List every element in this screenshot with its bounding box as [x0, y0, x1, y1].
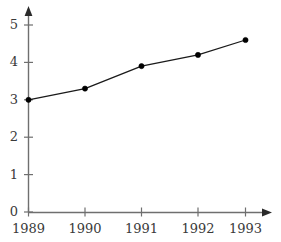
data-point-1989	[26, 97, 31, 102]
y-tick-label-3: 3	[4, 93, 18, 106]
x-axis	[29, 209, 273, 217]
y-axis-arrow-icon	[25, 6, 33, 16]
y-tick-label-1: 1	[4, 168, 18, 181]
x-tick-label-1990: 1990	[62, 222, 108, 235]
chart-plot-area	[0, 0, 281, 242]
data-point-1991	[139, 64, 144, 69]
x-tick-label-1993: 1993	[223, 222, 269, 235]
x-tick-label-1989: 1989	[6, 222, 52, 235]
y-axis	[25, 6, 33, 212]
series-markers	[26, 37, 248, 102]
series-line	[29, 40, 246, 100]
y-tick-label-5: 5	[4, 18, 18, 31]
x-tick-label-1991: 1991	[119, 222, 165, 235]
data-point-1993	[243, 37, 248, 42]
y-tick-label-4: 4	[4, 55, 18, 68]
line-chart: 5 4 3 2 1 0 1989 1990 1991 1992 1993	[0, 0, 281, 242]
x-axis-arrow-icon	[262, 209, 272, 217]
data-point-1990	[82, 86, 87, 91]
x-tick-label-1992: 1992	[175, 222, 221, 235]
y-tick-label-0: 0	[4, 205, 18, 218]
data-point-1992	[195, 52, 200, 57]
y-tick-label-2: 2	[4, 130, 18, 143]
